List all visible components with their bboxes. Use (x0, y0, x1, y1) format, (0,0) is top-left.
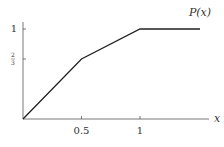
x-tick-label: 0.5 (74, 125, 90, 136)
x-axis-label: x (214, 112, 221, 125)
series-line-P (23, 29, 200, 119)
curve-label: P(x) (188, 6, 211, 19)
x-tick-label: 1 (137, 125, 143, 136)
y-tick-label: 1 (11, 23, 17, 34)
chart: 0.5 1 1 2 3 P(x) x (0, 0, 224, 147)
y-tick-fraction-num: 2 (11, 51, 15, 58)
y-tick-fraction-den: 3 (11, 59, 15, 66)
